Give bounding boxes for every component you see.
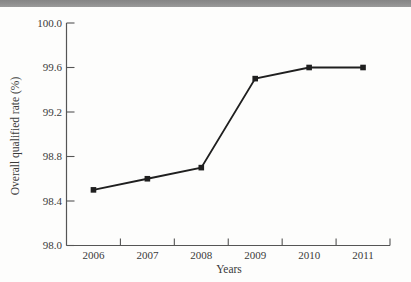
y-tick-label: 98.4: [43, 195, 63, 207]
data-point-2010: [306, 65, 312, 71]
y-tick-label: 100.0: [37, 17, 62, 29]
ticks-layer: [67, 23, 391, 246]
data-point-2009: [252, 76, 258, 82]
x-tick-label: 2009: [244, 249, 267, 261]
x-tick-label: 2010: [298, 249, 321, 261]
x-tick-label: 2006: [82, 249, 105, 261]
chart-canvas: 98.098.498.899.299.6100.0200620072008200…: [0, 7, 411, 282]
x-tick-label: 2007: [136, 249, 159, 261]
series-layer: [91, 65, 366, 193]
data-point-2006: [91, 187, 97, 193]
x-axis-title: Years: [216, 263, 242, 275]
data-point-2007: [145, 176, 151, 182]
y-tick-label: 98.8: [43, 150, 63, 162]
y-tick-label: 99.6: [43, 61, 63, 73]
data-point-2008: [198, 165, 204, 171]
chart-figure: 98.098.498.899.299.6100.0200620072008200…: [0, 7, 411, 282]
data-point-2011: [360, 65, 366, 71]
x-tick-label: 2008: [190, 249, 213, 261]
x-tick-label: 2011: [352, 249, 374, 261]
y-axis-title: Overall qualified rate (%): [9, 77, 22, 196]
y-tick-label: 98.0: [43, 239, 63, 251]
axes-layer: [67, 23, 391, 246]
tick-labels-layer: 98.098.498.899.299.6100.0200620072008200…: [37, 17, 374, 262]
window-top-bar: [0, 0, 411, 7]
series-line: [93, 68, 363, 190]
y-tick-label: 99.2: [43, 106, 62, 118]
